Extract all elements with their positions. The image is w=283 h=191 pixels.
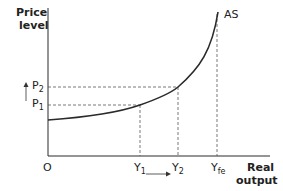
as-curve-label: AS: [224, 9, 239, 20]
y-axis-label-line2: level: [19, 20, 49, 31]
price-up-arrow: [24, 82, 29, 101]
as-curve: [48, 12, 218, 120]
p2-label: P2: [32, 80, 44, 94]
output-right-arrow: [146, 172, 171, 177]
yfe-label: Yfe: [211, 162, 225, 176]
x-axis-label-line1: Real: [247, 162, 274, 173]
guide-lines: [48, 14, 217, 156]
as-curve-diagram: Price level AS P2 P1 O Y1 Y2 Yfe Real ou…: [0, 0, 283, 191]
y-axis-label-line1: Price: [16, 7, 47, 18]
origin-label: O: [43, 162, 52, 173]
p1-label: P1: [32, 98, 44, 112]
y2-label: Y2: [172, 162, 184, 176]
x-axis-label-line2: output: [236, 175, 278, 186]
y1-label: Y1: [134, 162, 146, 176]
